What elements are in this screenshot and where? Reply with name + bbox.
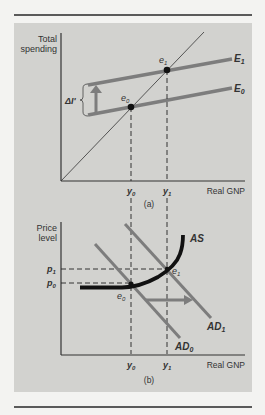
a-label-e0-curve: E0: [234, 83, 245, 95]
a-x-axis-label: Real GNP: [207, 186, 246, 196]
a-point-e0: [128, 104, 135, 111]
b-tick-y0: y0: [126, 360, 136, 371]
b-label-e0: e0: [117, 291, 126, 302]
b-label-e1: e1: [172, 266, 180, 277]
a-shift-label: ΔI': [64, 96, 77, 106]
a-label-e1-curve: E1: [234, 53, 245, 65]
b-tick-y1: y1: [162, 360, 172, 371]
b-x-axis-label: Real GNP: [207, 360, 246, 370]
a-y-axis-label-2: spending: [20, 44, 57, 54]
a-caption: (a): [144, 199, 155, 209]
a-y-axis-label-1: Total: [38, 34, 57, 44]
b-point-e0: [128, 281, 133, 286]
b-curve-as: [80, 235, 183, 288]
panel-a: Total spending Real GNP E1 E0 ΔI' e0 e1 …: [20, 32, 245, 209]
figure-svg: Total spending Real GNP E1 E0 ΔI' e0 e1 …: [0, 0, 265, 415]
b-tick-p1: p1: [46, 264, 57, 275]
a-shift-arrow-head: [90, 85, 102, 93]
b-tick-p0: p0: [46, 278, 57, 289]
b-y-axis-label-1: Price: [36, 223, 57, 233]
a-label-e1: e1: [159, 55, 167, 66]
a-tick-y0: y0: [126, 186, 136, 197]
a-tick-y1: y1: [162, 186, 172, 197]
b-label-as: AS: [189, 233, 204, 244]
b-point-e1: [165, 267, 169, 271]
a-brace-icon: [80, 84, 88, 116]
panel-b: Price level Real GNP AS AD1 AD0 e0 e1 p1…: [36, 222, 245, 385]
a-label-e0: e0: [121, 93, 130, 104]
b-y-axis-label-2: level: [38, 233, 57, 243]
a-point-e1: [164, 67, 171, 74]
b-label-ad0: AD0: [174, 341, 193, 353]
a-curve-e0: [88, 88, 232, 115]
b-caption: (b): [144, 375, 155, 385]
b-label-ad1: AD1: [206, 321, 225, 333]
